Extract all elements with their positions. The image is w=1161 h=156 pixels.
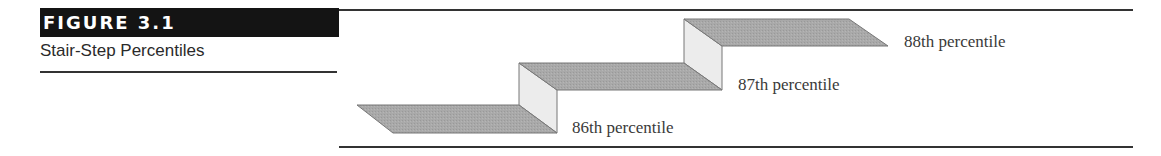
step-label-88th: 88th percentile [904,32,1006,52]
step-label-87th: 87th percentile [738,75,840,95]
step-label-86th: 86th percentile [572,118,674,138]
